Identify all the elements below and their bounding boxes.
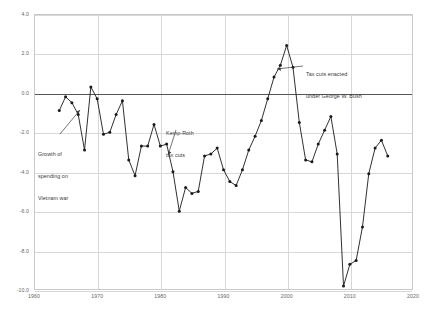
plot-area [34,14,413,290]
annotation-vietnam-line-1: Growth of [38,151,68,158]
gridline-horizontal [35,133,412,134]
gridline-horizontal [35,54,412,55]
annotation-kemp-line-2: tax cuts [166,152,194,159]
y-axis-tick-label: -6.0 [1,208,29,214]
annotation-kemp-line-1: Kemp-Roth [166,130,194,137]
gridline-vertical [161,15,162,289]
gridline-horizontal [35,212,412,213]
gridline-vertical [288,15,289,289]
annotation-vietnam-line-2: spending on [38,173,68,180]
annotation-vietnam-line-3: Vietnam war [38,195,68,202]
gridline-horizontal [35,252,412,253]
gridline-horizontal [35,15,412,16]
gridline-horizontal [35,291,412,292]
x-axis-tick-label: 1990 [204,293,244,299]
annotation-bush-line-2: under George W. Bush [306,93,362,100]
gridline-horizontal [35,173,412,174]
y-axis-tick-label: 2.0 [1,50,29,56]
y-axis-tick-label: 4.0 [1,11,29,17]
x-axis-tick-label: 2010 [330,293,370,299]
x-axis-tick-label: 1980 [140,293,180,299]
gridline-vertical [225,15,226,289]
x-axis-tick-label: 2000 [267,293,307,299]
annotation-vietnam-war: Growth of spending on Vietnam war [38,137,68,216]
y-axis-tick-label: -4.0 [1,169,29,175]
annotation-bush-line-1: Tax cuts enacted [306,71,362,78]
x-axis-tick-label: 2020 [393,293,424,299]
y-axis-tick-label: 0.0 [1,90,29,96]
x-axis-tick-label: 1960 [14,293,54,299]
x-axis-tick-label: 1970 [77,293,117,299]
annotation-bush-tax-cuts: Tax cuts enacted under George W. Bush [306,57,362,115]
annotation-kemp-roth: Kemp-Roth tax cuts [166,116,194,174]
y-axis-tick-label: -8.0 [1,248,29,254]
gridline-vertical [98,15,99,289]
y-axis-tick-label: -2.0 [1,129,29,135]
chart-figure: 4.02.00.0-2.0-4.0-6.0-8.0-10.0 196019701… [0,0,424,318]
